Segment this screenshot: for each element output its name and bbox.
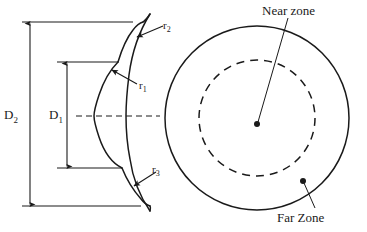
leader-line-near-zone (258, 18, 288, 122)
far-zone-circle (165, 26, 349, 210)
near-zone-label: Near zone (262, 3, 315, 19)
radius-label-r3: r3 (152, 163, 160, 178)
profile-outer-wall (126, 14, 150, 211)
profile-inner-wall (94, 62, 122, 168)
far-zone-point (300, 178, 306, 184)
profile-lower-throat (122, 168, 150, 206)
profile-upper-throat (118, 22, 143, 62)
side-view-group (22, 14, 163, 211)
dimension-label-d1: D1 (49, 107, 63, 125)
near-zone-circle (199, 60, 315, 176)
figure-canvas: D2 D1 r1 r2 r3 Near zone Far Zone (0, 0, 367, 232)
radius-label-r2: r2 (163, 19, 171, 34)
leader-line-r1 (112, 70, 137, 84)
radius-label-r1: r1 (139, 79, 147, 94)
far-zone-label: Far Zone (277, 210, 324, 226)
near-zone-point (254, 121, 260, 127)
dimension-label-d2: D2 (4, 107, 18, 125)
front-view-group (165, 18, 349, 210)
